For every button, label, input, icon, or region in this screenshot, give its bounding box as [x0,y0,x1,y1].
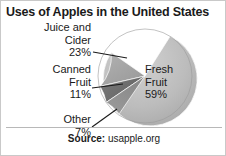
source-label: Source: [68,133,105,144]
slice-label-canned-line2: Fruit [69,76,91,88]
slice-label-juice-line1: Juice and [44,21,91,33]
slice-value-juice: 23% [11,46,91,59]
slice-label-juice-line2: Cider [65,34,91,46]
slice-value-canned: 11% [9,88,91,101]
leader-line-other [92,109,117,127]
pie-chart-figure: Uses of Apples in the United States [0,0,226,156]
slice-label-juice-and-cider: Juice and Cider 23% [11,21,91,59]
source-value: usapple.org [108,133,160,144]
slice-label-other-line1: Other [63,113,91,125]
slice-label-canned-fruit: Canned Fruit 11% [9,63,91,101]
slice-label-canned-line1: Canned [52,63,91,75]
footer-divider [6,127,222,128]
source-note: Source: usapple.org [1,133,226,144]
slice-label-fresh-line1: Fresh [145,63,173,75]
slice-value-fresh: 59% [145,88,197,101]
slice-label-fresh-fruit: Fresh Fruit 59% [145,63,197,101]
slice-label-fresh-line2: Fruit [145,76,167,88]
